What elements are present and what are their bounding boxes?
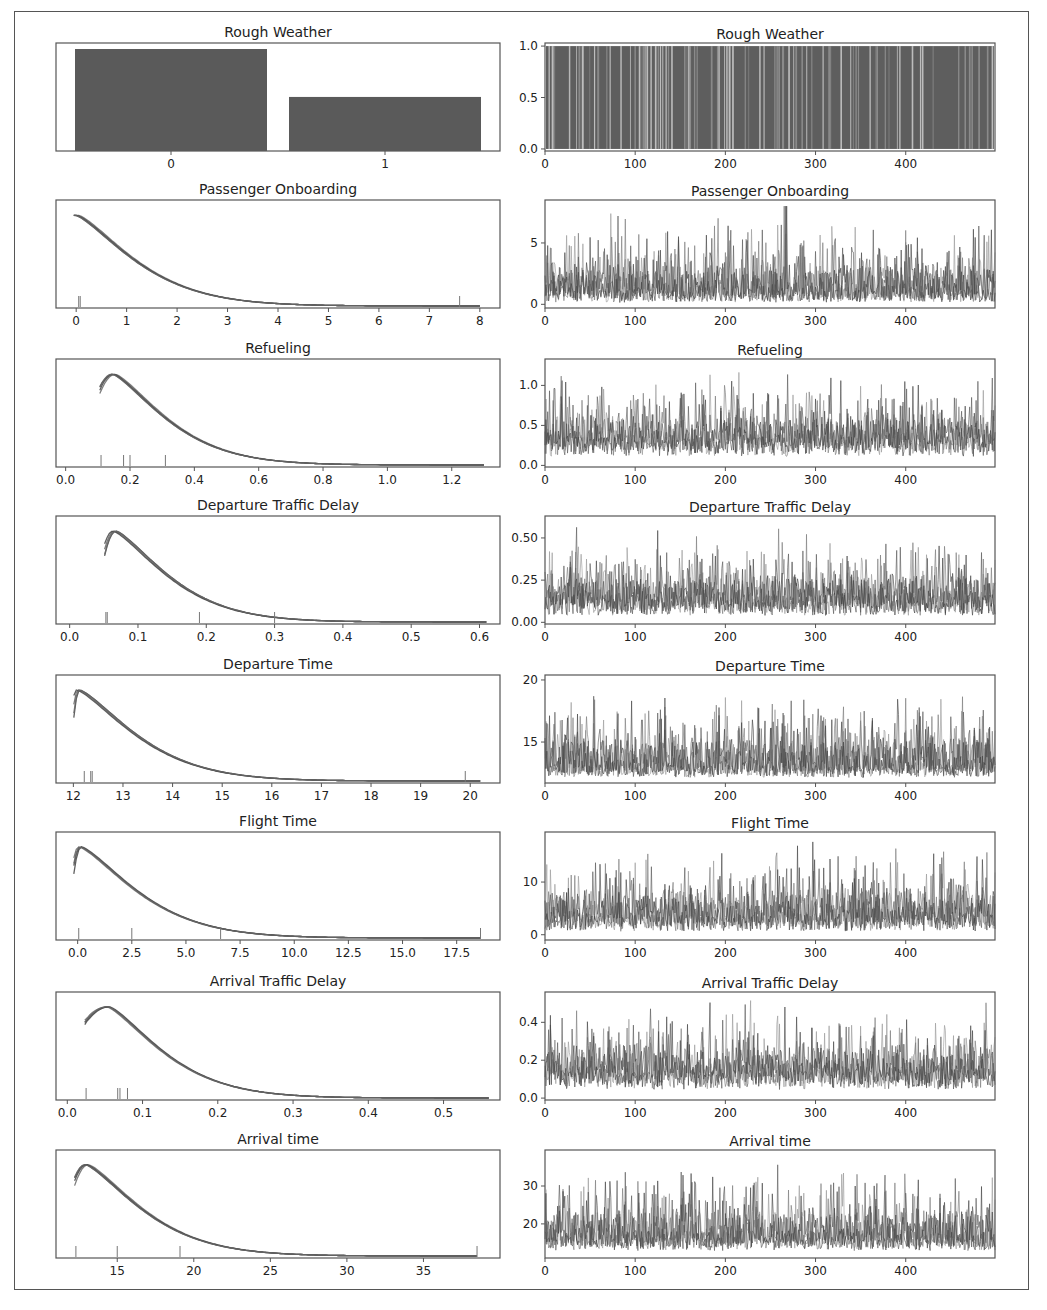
- x-tick-label: 0.0: [68, 946, 87, 960]
- row-passenger-onboarding: Passenger Onboarding012345678Passenger O…: [56, 181, 995, 328]
- x-tick-label: 12.5: [335, 946, 362, 960]
- x-tick-label: 5: [325, 314, 333, 328]
- trace-panel: Arrival time01002003004002030: [523, 1133, 995, 1278]
- x-tick-label: 1: [381, 157, 389, 171]
- x-tick-label: 300: [804, 1106, 827, 1120]
- panel-title: Flight Time: [239, 813, 317, 829]
- x-tick-label: 1: [123, 314, 131, 328]
- x-tick-label: 15: [110, 1264, 125, 1278]
- panel-title: Arrival Traffic Delay: [702, 975, 839, 991]
- x-tick-label: 200: [714, 314, 737, 328]
- x-tick-label: 300: [804, 946, 827, 960]
- plot-area: [56, 832, 500, 940]
- x-tick-label: 17: [314, 789, 329, 803]
- x-tick-label: 0: [541, 630, 549, 644]
- trace-panel: Arrival Traffic Delay01002003004000.00.2…: [519, 975, 995, 1120]
- x-tick-label: 7.5: [231, 946, 250, 960]
- y-tick-label: 5: [530, 236, 538, 250]
- y-tick-label: 0.5: [519, 91, 538, 105]
- y-tick-label: 0.0: [519, 458, 538, 472]
- x-tick-label: 0: [541, 314, 549, 328]
- x-tick-label: 0.0: [58, 1106, 77, 1120]
- x-tick-label: 0.1: [133, 1106, 152, 1120]
- x-tick-label: 100: [624, 314, 647, 328]
- x-tick-label: 0.6: [249, 473, 268, 487]
- x-tick-label: 0.2: [120, 473, 139, 487]
- row-arrival-traffic-delay: Arrival Traffic Delay0.00.10.20.30.40.5A…: [56, 973, 995, 1120]
- x-tick-label: 10.0: [281, 946, 308, 960]
- posterior-panel: Flight Time0.02.55.07.510.012.515.017.5: [56, 813, 500, 960]
- panel-title: Departure Traffic Delay: [197, 497, 359, 513]
- trace-panel: Refueling01002003004000.00.51.0: [519, 342, 995, 487]
- panel-title: Refueling: [737, 342, 803, 358]
- x-tick-label: 5.0: [176, 946, 195, 960]
- x-tick-label: 200: [714, 1264, 737, 1278]
- x-tick-label: 0: [541, 789, 549, 803]
- posterior-panel: Departure Traffic Delay0.00.10.20.30.40.…: [56, 497, 500, 644]
- x-tick-label: 200: [714, 946, 737, 960]
- x-tick-label: 100: [624, 473, 647, 487]
- x-tick-label: 0.0: [56, 473, 75, 487]
- y-tick-label: 10: [523, 875, 538, 889]
- x-tick-label: 100: [624, 946, 647, 960]
- trace-panel: Departure Traffic Delay01002003004000.00…: [511, 499, 995, 644]
- y-tick-label: 20: [523, 673, 538, 687]
- posterior-panel: Departure Time121314151617181920: [56, 656, 500, 803]
- x-tick-label: 100: [624, 157, 647, 171]
- y-tick-label: 0.50: [511, 531, 538, 545]
- x-tick-label: 15.0: [389, 946, 416, 960]
- x-tick-label: 8: [476, 314, 484, 328]
- x-tick-label: 18: [363, 789, 378, 803]
- x-tick-label: 30: [339, 1264, 354, 1278]
- x-tick-label: 300: [804, 789, 827, 803]
- trace-fill: [546, 46, 994, 149]
- plot-area: [56, 200, 500, 308]
- row-arrival-time: Arrival time1520253035Arrival time010020…: [56, 1131, 995, 1278]
- x-tick-label: 7: [426, 314, 434, 328]
- x-tick-label: 0.4: [359, 1106, 378, 1120]
- y-tick-label: 20: [523, 1217, 538, 1231]
- row-flight-time: Flight Time0.02.55.07.510.012.515.017.5F…: [56, 813, 995, 960]
- x-tick-label: 0.2: [197, 630, 216, 644]
- x-tick-label: 200: [714, 473, 737, 487]
- x-tick-label: 0.4: [185, 473, 204, 487]
- posterior-panel: Passenger Onboarding012345678: [56, 181, 500, 328]
- y-tick-label: 0: [530, 928, 538, 942]
- row-departure-traffic-delay: Departure Traffic Delay0.00.10.20.30.40.…: [56, 497, 995, 644]
- traceplot-figure: Rough Weather01Rough Weather010020030040…: [0, 0, 1047, 1310]
- x-tick-label: 400: [894, 314, 917, 328]
- posterior-panel: Arrival Traffic Delay0.00.10.20.30.40.5: [56, 973, 500, 1120]
- plot-area: [545, 359, 995, 467]
- y-tick-label: 0.2: [519, 1053, 538, 1067]
- x-tick-label: 300: [804, 630, 827, 644]
- x-tick-label: 1.2: [442, 473, 461, 487]
- y-tick-label: 0: [530, 297, 538, 311]
- posterior-panel: Arrival time1520253035: [56, 1131, 500, 1278]
- x-tick-label: 0.2: [208, 1106, 227, 1120]
- y-tick-label: 0.0: [519, 1091, 538, 1105]
- x-tick-label: 15: [215, 789, 230, 803]
- x-tick-label: 6: [375, 314, 383, 328]
- y-tick-label: 30: [523, 1179, 538, 1193]
- y-tick-label: 0.00: [511, 615, 538, 629]
- x-tick-label: 19: [413, 789, 428, 803]
- panel-title: Flight Time: [731, 815, 809, 831]
- x-tick-label: 12: [66, 789, 81, 803]
- x-tick-label: 400: [894, 1106, 917, 1120]
- x-tick-label: 0: [541, 1264, 549, 1278]
- x-tick-label: 300: [804, 314, 827, 328]
- x-tick-label: 0.5: [434, 1106, 453, 1120]
- x-tick-label: 4: [274, 314, 282, 328]
- plot-area: [56, 516, 500, 624]
- panel-title: Departure Time: [715, 658, 825, 674]
- x-tick-label: 0: [541, 473, 549, 487]
- x-tick-label: 3: [224, 314, 232, 328]
- plot-area: [56, 1150, 500, 1258]
- x-tick-label: 20: [186, 1264, 201, 1278]
- row-departure-time: Departure Time121314151617181920Departur…: [56, 656, 995, 803]
- panel-title: Departure Time: [223, 656, 333, 672]
- trace-panel: Rough Weather01002003004000.00.51.0: [519, 26, 995, 171]
- x-tick-label: 0.5: [402, 630, 421, 644]
- panel-title: Arrival time: [729, 1133, 811, 1149]
- x-tick-label: 300: [804, 473, 827, 487]
